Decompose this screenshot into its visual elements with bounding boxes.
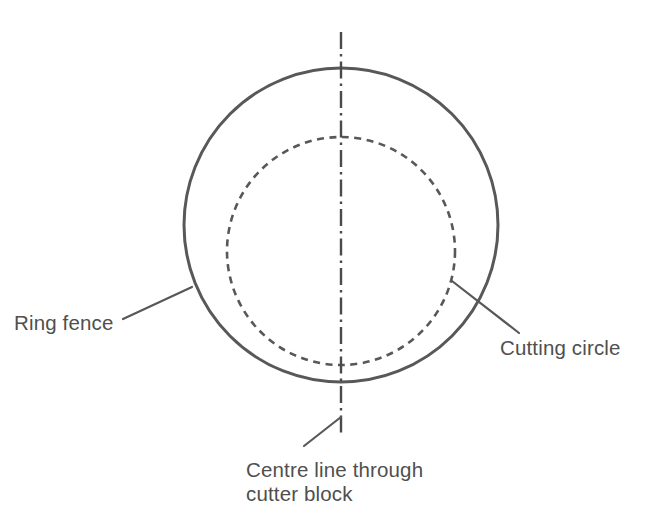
label-centre-line-second-line: cutter block: [246, 482, 353, 505]
diagram-canvas: Ring fence Cutting circle Centre line th…: [0, 0, 655, 531]
ring-fence-cutting-circle-diagram: Ring fence Cutting circle Centre line th…: [0, 0, 655, 531]
label-centre-line-first-line: Centre line through: [246, 458, 423, 481]
label-ring-fence: Ring fence: [14, 311, 114, 334]
label-cutting-circle: Cutting circle: [500, 336, 621, 359]
diagram-background: [0, 0, 655, 531]
